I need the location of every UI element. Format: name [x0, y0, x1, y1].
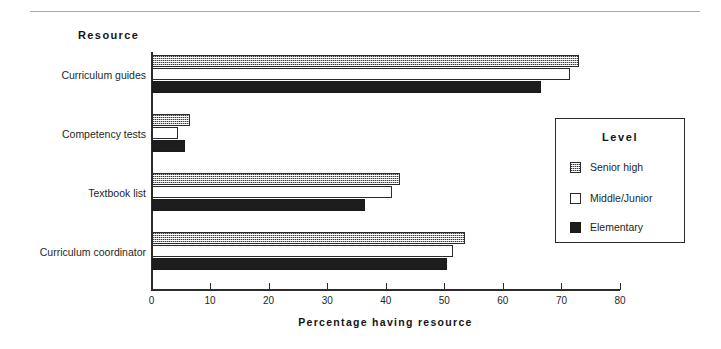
legend-item-label: Senior high: [590, 161, 643, 173]
bar-elementary: [152, 199, 366, 211]
y-axis-caption: Resource: [78, 29, 139, 41]
y-axis-category-label: Curriculum guides: [61, 69, 146, 81]
bar-senior: [152, 173, 401, 185]
x-axis-tick-label: 50: [439, 295, 450, 306]
x-axis-tick: [561, 283, 562, 290]
bar-elementary: [152, 81, 541, 93]
legend-item[interactable]: Middle/Junior: [570, 192, 652, 204]
bar-elementary: [152, 140, 186, 152]
x-axis-tick: [152, 283, 153, 290]
legend-swatch-senior-icon: [570, 162, 581, 173]
y-axis-category-label-slot: Curriculum coordinator: [0, 246, 146, 258]
x-axis-tick-label: 60: [497, 295, 508, 306]
x-axis-tick-label: 30: [322, 295, 333, 306]
x-axis-tick: [327, 283, 328, 290]
legend-swatch-middle-icon: [570, 193, 581, 204]
legend-item[interactable]: Elementary: [570, 221, 643, 233]
figure-canvas: Resource 01020304050607080 Curriculum gu…: [0, 0, 721, 349]
x-axis-tick: [620, 283, 621, 290]
bar-middle: [152, 68, 571, 80]
y-axis-category-label: Curriculum coordinator: [40, 246, 146, 258]
bar-senior: [152, 55, 580, 67]
x-axis-tick-label: 0: [149, 295, 155, 306]
x-axis-tick-label: 40: [380, 295, 391, 306]
y-axis-category-label: Competency tests: [62, 128, 146, 140]
y-axis-category-label-slot: Curriculum guides: [0, 69, 146, 81]
bar-senior: [152, 114, 190, 126]
legend-item[interactable]: Senior high: [570, 161, 643, 173]
x-axis-tick: [503, 283, 504, 290]
legend-item-label: Elementary: [590, 221, 643, 233]
x-axis-tick-label: 70: [556, 295, 567, 306]
legend-title: Level: [556, 131, 684, 143]
header-divider: [30, 11, 700, 12]
y-axis-category-label-slot: Textbook list: [0, 187, 146, 199]
bar-middle: [152, 245, 454, 257]
legend: Level Senior highMiddle/JuniorElementary: [555, 118, 685, 243]
x-axis-tick-label: 80: [614, 295, 625, 306]
x-axis-tick-label: 10: [205, 295, 216, 306]
x-axis-tick: [269, 283, 270, 290]
x-axis-tick: [210, 283, 211, 290]
x-axis-tick-label: 20: [263, 295, 274, 306]
bar-senior: [152, 232, 465, 244]
bar-middle: [152, 186, 392, 198]
y-axis-category-label-slot: Competency tests: [0, 128, 146, 140]
x-axis-tick: [444, 283, 445, 290]
bar-middle: [152, 127, 178, 139]
legend-item-label: Middle/Junior: [590, 192, 652, 204]
x-axis-caption: Percentage having resource: [151, 316, 620, 328]
bar-elementary: [152, 258, 448, 270]
y-axis-category-label: Textbook list: [88, 187, 146, 199]
x-axis-tick: [386, 283, 387, 290]
legend-swatch-elementary-icon: [570, 222, 581, 233]
